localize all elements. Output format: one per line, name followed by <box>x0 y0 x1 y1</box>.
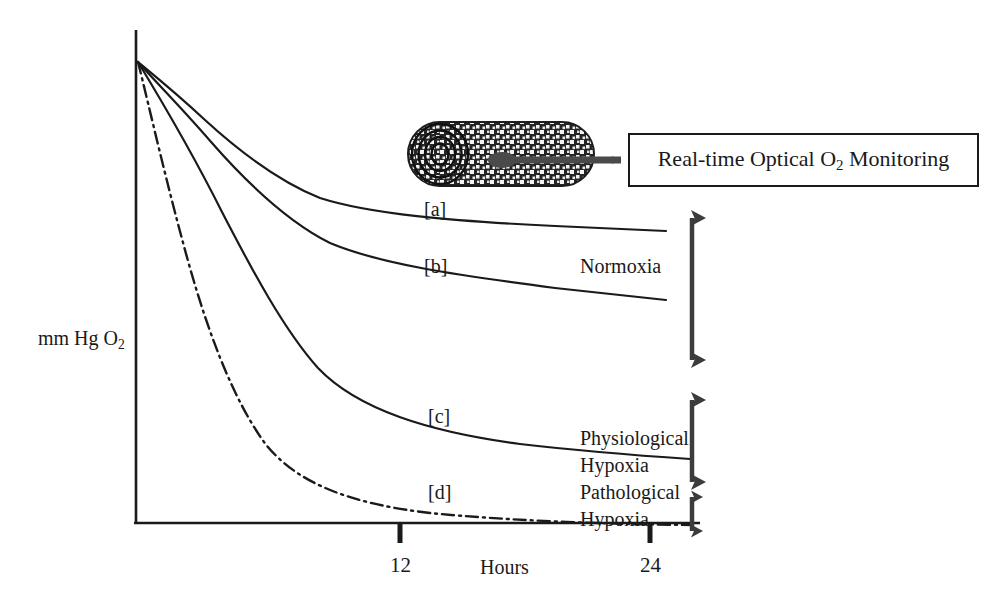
monitoring-callout-text: Real-time Optical O2 Monitoring <box>658 146 950 174</box>
region-label-normoxia: Normoxia <box>580 255 661 278</box>
region-label-physiological-hypoxia-line1: Physiological <box>580 427 689 450</box>
y-axis-label: mm Hg O2 <box>38 327 125 352</box>
y-axis-label-subscript: 2 <box>118 337 125 352</box>
y-axis-label-text: mm Hg O <box>38 327 118 349</box>
monitoring-callout-box: Real-time Optical O2 Monitoring <box>628 133 979 187</box>
curve-label-d: [d] <box>428 481 451 504</box>
monitoring-callout-suffix: Monitoring <box>844 146 950 171</box>
x-axis-label: Hours <box>480 556 529 579</box>
monitoring-callout-prefix: Real-time Optical O <box>658 146 836 171</box>
curve-label-b: [b] <box>424 255 447 278</box>
curve-label-c: [c] <box>428 405 450 428</box>
x-tick-label-24: 24 <box>640 553 661 577</box>
scaffold-tube-graphic <box>408 122 621 186</box>
curve-label-a: [a] <box>424 198 446 221</box>
region-label-pathological-hypoxia-line1: Pathological <box>580 481 680 504</box>
figure-svg <box>0 0 1000 605</box>
monitoring-callout-subscript: 2 <box>836 157 843 173</box>
x-tick-label-12: 12 <box>390 553 411 577</box>
figure-container: mm Hg O2 12 24 Hours [a] [b] [c] [d] Nor… <box>0 0 1000 605</box>
region-label-physiological-hypoxia-line2: Hypoxia <box>580 454 649 477</box>
region-label-pathological-hypoxia-line2: Hypoxia <box>580 508 649 531</box>
